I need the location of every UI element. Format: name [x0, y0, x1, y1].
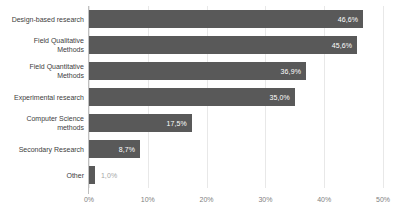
bar-value-label: 45,6% — [332, 42, 352, 49]
bar — [89, 88, 295, 106]
x-tick-label: 50% — [376, 196, 390, 203]
bar-value-label: 8,7% — [119, 146, 135, 153]
bar-row: 36,9% — [89, 62, 306, 80]
bar — [89, 10, 363, 28]
bar-value-label: 35,0% — [269, 94, 289, 101]
bar-row: 1,0% — [89, 166, 95, 184]
category-label: Other — [0, 171, 84, 180]
bar — [89, 166, 95, 184]
category-axis-labels: Design-based research Field Qualitative … — [0, 0, 84, 224]
bar-row: 8,7% — [89, 140, 140, 158]
bar-value-label: 1,0% — [101, 172, 117, 179]
x-tick-label: 30% — [258, 196, 272, 203]
bar-row: 17,5% — [89, 114, 192, 132]
x-tick-label: 0% — [84, 196, 94, 203]
bar-value-label: 17,5% — [167, 120, 187, 127]
category-label: Field Qualitative Methods — [0, 36, 84, 54]
category-label: Design-based research — [0, 15, 84, 24]
x-tick-label: 40% — [317, 196, 331, 203]
bar-chart: Design-based research Field Qualitative … — [0, 0, 404, 224]
bar-value-label: 46,6% — [338, 16, 358, 23]
plot-area: 46,6% 45,6% 36,9% 35,0% 17,5% 8,7% 1,0% — [89, 0, 383, 224]
category-label: Secondary Research — [0, 145, 84, 154]
bar-value-label: 36,9% — [281, 68, 301, 75]
gridline — [324, 6, 325, 188]
x-tick-label: 10% — [141, 196, 155, 203]
gridline — [383, 6, 384, 188]
bar-row: 46,6% — [89, 10, 363, 28]
bar — [89, 62, 306, 80]
category-label: Computer Science methods — [0, 114, 84, 132]
bar-row: 35,0% — [89, 88, 295, 106]
category-label: Experimental research — [0, 93, 84, 102]
x-tick-label: 20% — [200, 196, 214, 203]
bar-row: 45,6% — [89, 36, 357, 54]
category-label: Field Quantitative Methods — [0, 62, 84, 80]
bar — [89, 36, 357, 54]
